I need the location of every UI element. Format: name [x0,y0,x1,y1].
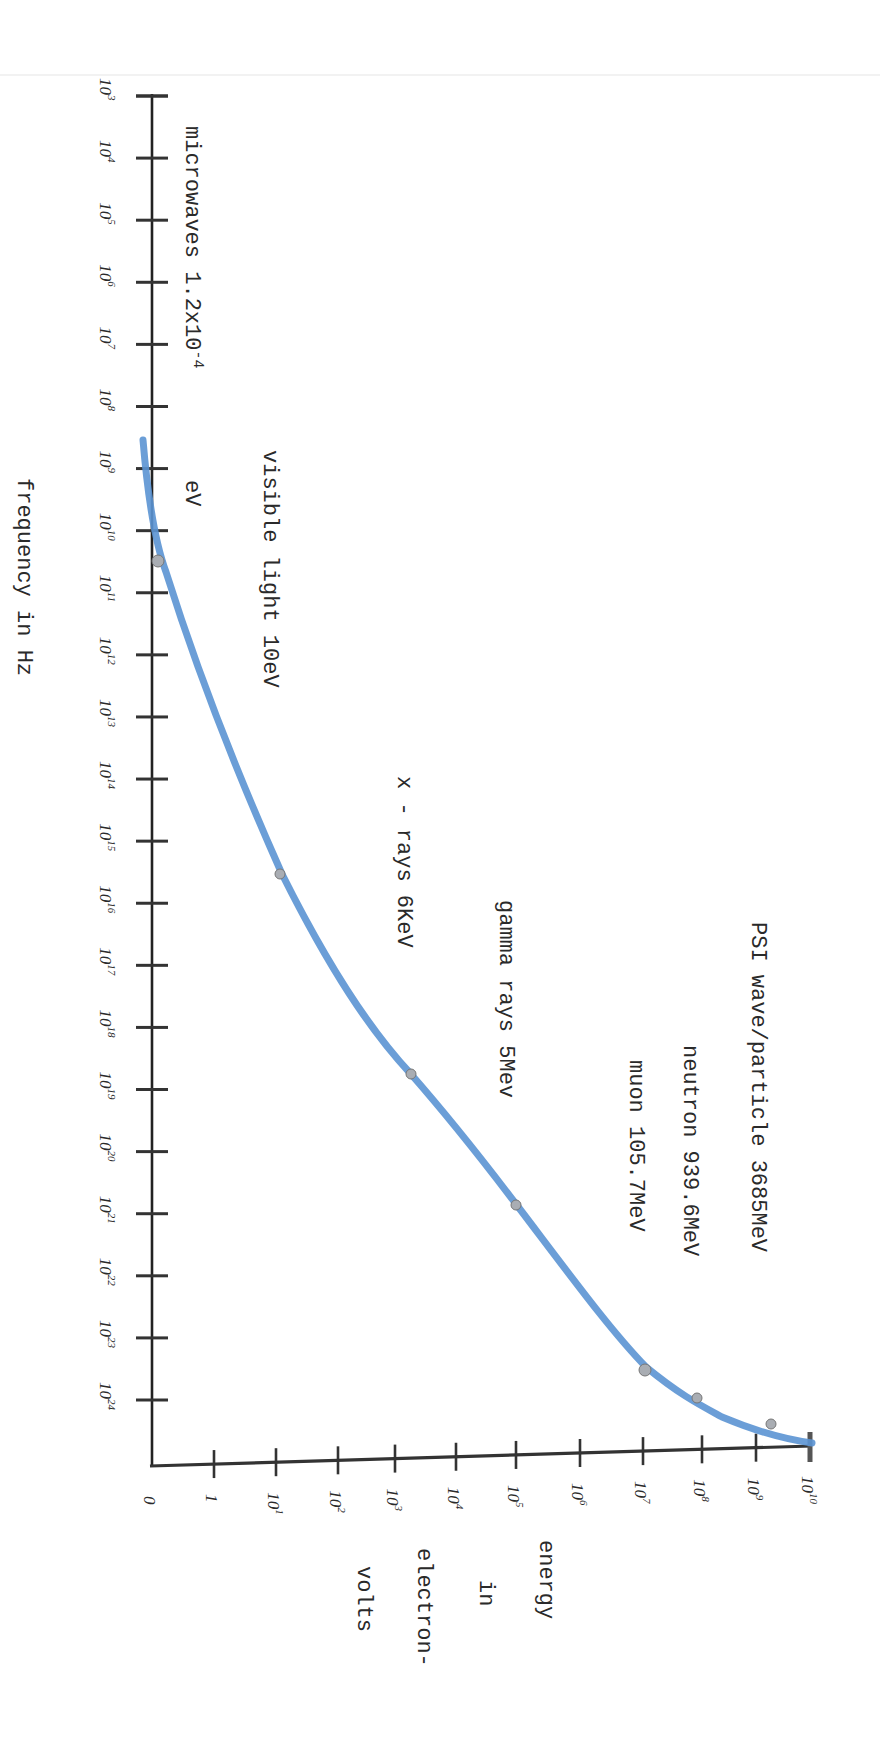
energy-tick-label: 1010 [798,1476,820,1505]
frequency-tick-label: 1012 [96,637,118,666]
frequency-tick-label: 107 [96,326,118,349]
annotation-visible-light: visible light 10eV [257,450,282,688]
frequency-tick-label: 1021 [96,1196,118,1224]
frequency-tick-label: 1011 [96,575,118,602]
energy-frequency-chart: 1031041051061071081091010101110121013101… [0,0,880,1760]
energy-tick-label: 103 [383,1489,405,1512]
annotation-muon: muon 105.7MeV [623,1060,648,1232]
frequency-tick-label: 108 [96,388,118,411]
energy-tick-label: 102 [326,1490,348,1513]
energy-tick-label: 1 [202,1494,221,1503]
frequency-tick-label: 1024 [96,1382,118,1411]
y-axis-title-line-4: volts [351,1566,376,1632]
energy-ticks: 011011021031041051061071081091010 [140,1434,820,1515]
energy-tick-label: 108 [690,1479,712,1502]
annotation-xrays: x - rays 6KeV [391,776,416,948]
annotation-microwaves: microwaves 1.2x10-4 [179,126,206,368]
frequency-tick-label: 105 [96,202,118,225]
marker-visible-light [275,869,285,879]
frequency-tick-label: 109 [96,451,118,474]
frequency-ticks: 1031041051061071081091010101110121013101… [96,78,168,1411]
frequency-tick-label: 1018 [96,1009,118,1038]
energy-tick-label: 107 [631,1481,653,1504]
energy-axis [150,1446,812,1466]
energy-tick-label: 0 [140,1496,159,1505]
frequency-tick-label: 106 [96,264,118,287]
marker-neutron [692,1393,702,1403]
energy-tick-label: 104 [444,1487,466,1510]
frequency-tick-label: 1022 [96,1258,118,1287]
y-axis-title-line-2: in [473,1580,498,1606]
marker-xrays [406,1069,416,1079]
marker-microwaves [152,555,164,567]
frequency-tick-label: 1015 [96,823,118,852]
frequency-tick-label: 1017 [96,947,118,976]
frequency-tick-label: 1019 [96,1072,118,1101]
annotation-gamma-rays: gamma rays 5Mev [493,900,518,1098]
frequency-tick-label: 1010 [96,513,118,542]
marker-muon [639,1364,651,1376]
frequency-tick-label: 1023 [96,1320,118,1349]
energy-tick-label: 105 [504,1485,526,1508]
energy-curve [143,440,812,1443]
y-axis-title-line-1: energy [533,1540,558,1619]
frequency-tick-label: 1016 [96,885,118,914]
annotation-psi: PSI wave/particle 3685MeV [745,922,770,1253]
frequency-tick-label: 1014 [96,761,118,790]
frequency-tick-label: 103 [96,78,118,101]
marker-psi [766,1419,776,1429]
frequency-tick-label: 1020 [96,1134,118,1163]
energy-tick-label: 109 [744,1478,766,1501]
x-axis-title: frequency in Hz [11,478,36,676]
y-axis-title-line-3: electron- [411,1548,436,1667]
annotation-neutron: neutron 939.6MeV [677,1045,702,1257]
frequency-tick-label: 104 [96,140,118,163]
energy-tick-label: 101 [264,1492,286,1515]
annotation-microwaves-unit: eV [179,480,204,507]
marker-gamma-rays [511,1200,521,1210]
frequency-tick-label: 1013 [96,699,118,728]
energy-tick-label: 106 [568,1483,590,1506]
